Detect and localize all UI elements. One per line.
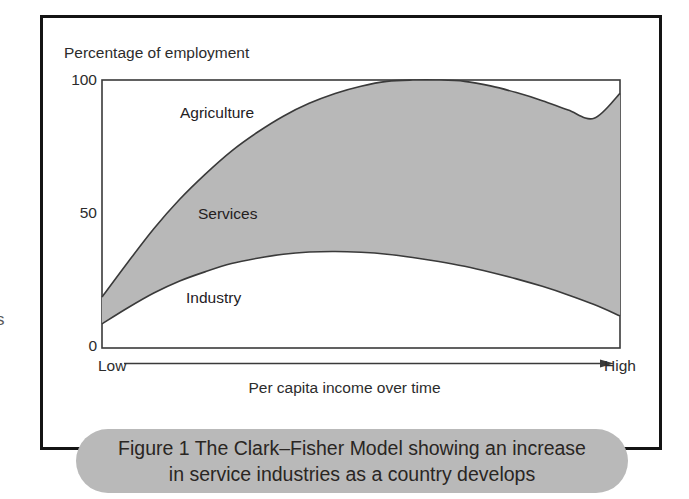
margin-clipped-glyph: s — [0, 310, 5, 330]
region-label-industry: Industry — [186, 289, 241, 307]
region-label-services: Services — [198, 205, 257, 223]
figure-caption-text: Figure 1 The Clark–Fisher Model showing … — [118, 435, 586, 487]
figure-page: s Percentage of employment 100 50 0 Agri… — [0, 0, 689, 499]
x-axis-label-high: High — [604, 357, 636, 375]
figure-caption-pill: Figure 1 The Clark–Fisher Model showing … — [76, 429, 628, 493]
x-axis-title: Per capita income over time — [0, 379, 689, 397]
clark-fisher-area-chart — [40, 15, 680, 415]
region-label-agriculture: Agriculture — [180, 104, 254, 122]
x-axis-label-low: Low — [98, 357, 126, 375]
